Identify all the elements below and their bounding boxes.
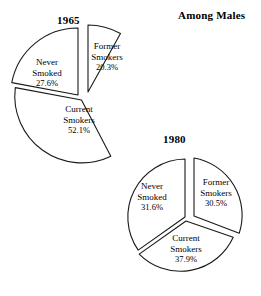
slice-label-line2: Smoked xyxy=(124,192,180,203)
figure-canvas: Among Males 1965 Never Smoked 27.6% Form… xyxy=(0,0,261,296)
slice-label-1980-former-smokers: Former Smokers 30.5% xyxy=(188,177,244,209)
slice-value: 37.9% xyxy=(156,254,216,265)
slice-value: 52.1% xyxy=(49,125,109,136)
slice-label-1980-current-smokers: Current Smokers 37.9% xyxy=(156,233,216,265)
slice-label-1965-former-smokers: Former Smokers 20.3% xyxy=(79,41,135,73)
slice-label-1965-current-smokers: Current Smokers 52.1% xyxy=(49,104,109,136)
slice-label-line2: Smokers xyxy=(188,188,244,199)
slice-value: 20.3% xyxy=(79,62,135,73)
slice-label-line2: Smokers xyxy=(49,115,109,126)
slice-label-line1: Current xyxy=(156,233,216,244)
slice-label-line1: Never xyxy=(19,57,75,68)
slice-label-line1: Former xyxy=(79,41,135,52)
slice-label-line1: Current xyxy=(49,104,109,115)
figure-heading: Among Males xyxy=(178,9,245,21)
slice-value: 27.6% xyxy=(19,78,75,89)
slice-label-1980-never-smoked: Never Smoked 31.6% xyxy=(124,181,180,213)
slice-label-line1: Never xyxy=(124,181,180,192)
slice-value: 30.5% xyxy=(188,198,244,209)
slice-label-1965-never-smoked: Never Smoked 27.6% xyxy=(19,57,75,89)
slice-label-line2: Smokers xyxy=(79,52,135,63)
slice-value: 31.6% xyxy=(124,202,180,213)
slice-label-line1: Former xyxy=(188,177,244,188)
slice-label-line2: Smokers xyxy=(156,244,216,255)
chart-title-1965: 1965 xyxy=(57,14,80,26)
slice-label-line2: Smoked xyxy=(19,68,75,79)
chart-title-1980: 1980 xyxy=(163,133,186,145)
